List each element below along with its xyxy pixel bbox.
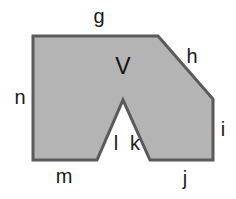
edge-label-n: n [14,87,25,107]
edge-label-j: j [183,168,187,188]
edge-label-g: g [93,6,104,26]
vertex-label-v: V [115,55,130,78]
figure-canvas: g h i j k l m n V [0,0,236,199]
edge-label-m: m [56,166,73,186]
edge-label-l: l [114,133,118,153]
edge-label-h: h [186,46,197,66]
edge-label-k: k [130,133,140,153]
edge-label-i: i [221,119,225,139]
polygon-drawing [0,0,236,199]
